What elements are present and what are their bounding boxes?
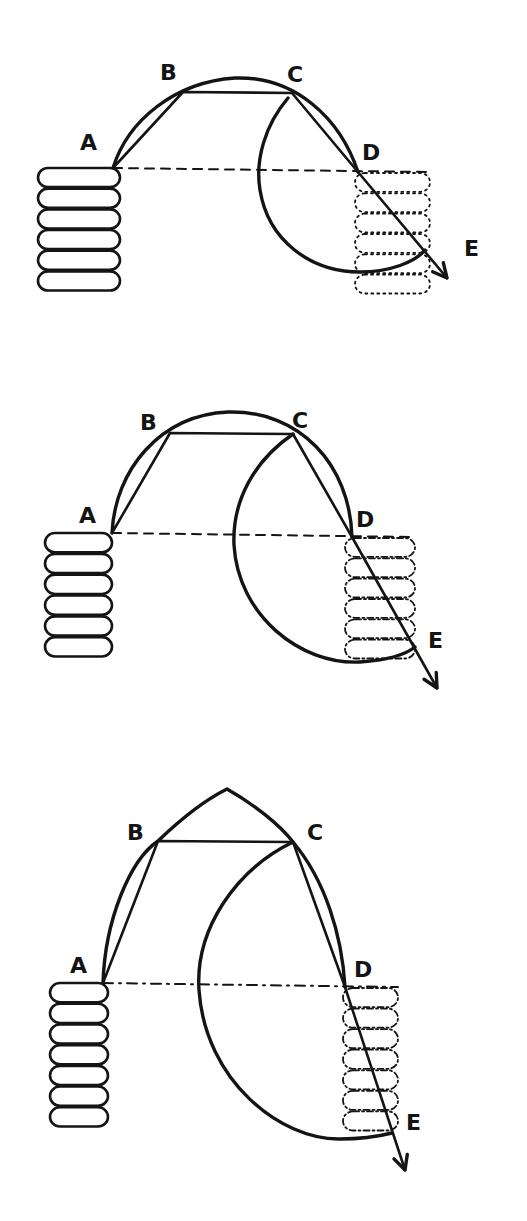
swing-curve-c-e [259,98,425,272]
left-disc-stack-disc [50,1004,108,1023]
baseline-a-d [112,533,415,537]
right-disc-stack-ghost [345,538,415,659]
swing-curve-c-e [234,434,415,662]
right-disc-stack-ghost-disc [345,558,415,577]
left-disc-stack-disc [45,616,112,635]
arrow-line-d-e [352,537,437,688]
left-disc-stack-disc [38,251,120,270]
right-disc-stack-ghost-disc [343,1091,398,1110]
right-disc-stack-ghost-disc [343,1029,398,1048]
swing-curve-c-e [199,842,392,1139]
left-disc-stack-disc [50,1066,108,1085]
point-label-a: A [70,953,87,978]
point-label-b: B [127,820,144,845]
right-disc-stack-ghost-disc [345,599,415,618]
left-disc-stack-disc [38,271,120,290]
point-label-b: B [140,410,157,435]
left-disc-stack-disc [38,168,120,187]
left-disc-stack-disc [45,637,112,656]
left-disc-stack-disc [50,1045,108,1064]
right-disc-stack-ghost-disc [355,275,430,294]
left-disc-stack-disc [50,983,108,1002]
left-disc-stack-disc [45,554,112,573]
diagram-panel-2: ABCDE [45,408,443,688]
right-disc-stack-ghost-disc [345,640,415,659]
right-disc-stack-ghost-disc [343,1070,398,1089]
left-disc-stack-disc [38,189,120,208]
point-label-e: E [464,236,479,261]
point-label-e: E [428,628,443,653]
left-disc-stack-disc [38,209,120,228]
right-disc-stack-ghost-disc [355,193,430,212]
figure-canvas: ABCDE ABCDE ABCDE [0,0,527,1221]
point-label-c: C [292,408,308,433]
baseline-a-d [113,168,430,172]
left-disc-stack-disc [45,533,112,552]
point-label-d: D [356,507,374,532]
point-label-b: B [160,60,177,85]
arrow-line-d-e [358,172,447,278]
left-disc-stack-disc [50,1024,108,1043]
left-disc-stack [50,983,108,1127]
point-label-e: E [406,1110,421,1135]
diagram-panel-1: ABCDE [38,60,479,294]
left-disc-stack [45,533,112,657]
left-disc-stack-disc [50,1087,108,1106]
right-disc-stack-ghost-disc [343,1009,398,1028]
point-label-c: C [287,62,303,87]
baseline-a-d [103,983,398,987]
point-label-c: C [307,820,323,845]
right-disc-stack-ghost [355,173,430,294]
point-label-d: D [362,140,380,165]
point-label-a: A [79,503,96,528]
left-disc-stack-disc [50,1107,108,1126]
right-disc-stack-ghost-disc [355,214,430,233]
left-disc-stack-disc [45,575,112,594]
point-label-a: A [80,130,97,155]
left-disc-stack-disc [38,230,120,249]
left-disc-stack [38,168,120,291]
left-disc-stack-disc [45,596,112,615]
arrow-line-d-e [345,987,405,1170]
chord-path-a-b-c-d [113,92,358,172]
point-label-d: D [354,957,372,982]
diagram-panel-3: ABCDE [50,789,421,1170]
